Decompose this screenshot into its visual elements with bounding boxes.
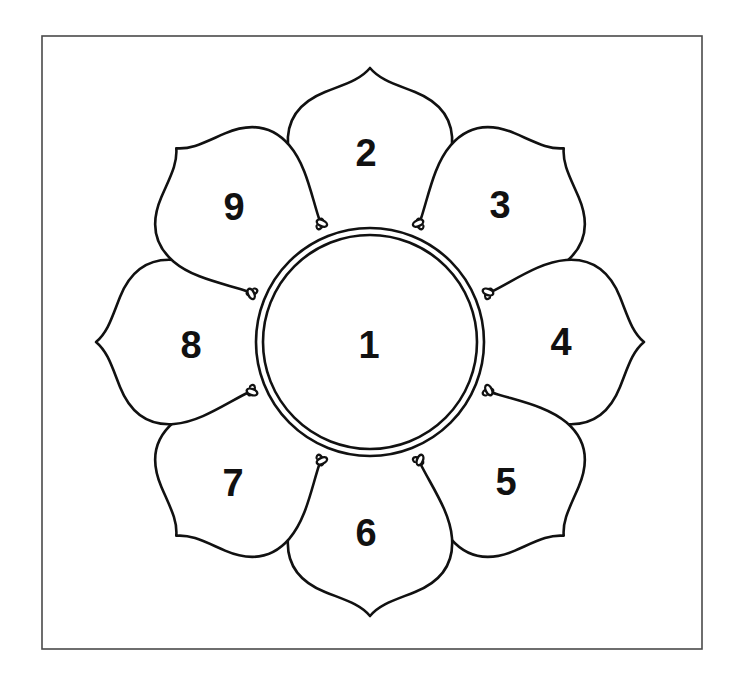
petal-label-7: 7 <box>222 462 243 504</box>
petal-label-2: 2 <box>355 132 376 174</box>
petal-label-8: 8 <box>180 324 201 366</box>
petal-label-3: 3 <box>489 184 510 226</box>
petal-label-9: 9 <box>223 186 244 228</box>
center-label: 1 <box>358 324 379 366</box>
petal-label-5: 5 <box>495 461 516 503</box>
petal-label-4: 4 <box>550 321 571 363</box>
lotus-diagram: 1 23456789 <box>0 0 739 685</box>
petal-label-6: 6 <box>355 512 376 554</box>
